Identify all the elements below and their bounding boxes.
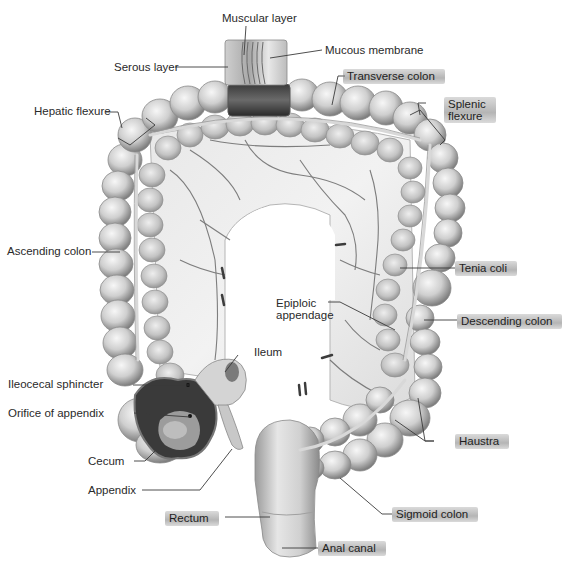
label-tenia-coli: Tenia coli	[455, 261, 517, 276]
wall-layers-cutaway	[225, 40, 287, 85]
label-mucous-membrane: Mucous membrane	[325, 44, 423, 57]
label-ascending-colon: Ascending colon	[7, 245, 91, 258]
label-rectum: Rectum	[165, 511, 219, 526]
large-intestine-diagram: Muscular layer Mucous membrane Serous la…	[0, 0, 566, 566]
label-splenic-flexure-line2: flexure	[448, 110, 483, 122]
label-epiploic-appendage-line2: appendage	[276, 309, 334, 321]
label-anal-canal: Anal canal	[318, 541, 386, 556]
label-splenic-flexure-line1: Splenic	[448, 98, 486, 110]
label-orifice-of-appendix: Orifice of appendix	[8, 407, 104, 420]
label-epiploic-appendage-line1: Epiploic	[276, 297, 316, 309]
label-sigmoid-colon: Sigmoid colon	[392, 507, 478, 522]
label-ileocecal-sphincter: Ileocecal sphincter	[8, 378, 103, 391]
appendix-shape	[218, 405, 243, 449]
label-cecum: Cecum	[88, 455, 124, 468]
label-hepatic-flexure: Hepatic flexure	[34, 105, 111, 118]
label-ileum: Ileum	[254, 346, 282, 359]
intestine-illustration	[0, 0, 566, 566]
label-muscular-layer: Muscular layer	[222, 12, 297, 25]
label-epiploic-appendage: Epiploic appendage	[276, 297, 334, 321]
rectum-shape	[255, 420, 319, 557]
label-splenic-flexure: Splenic flexure	[444, 97, 496, 123]
label-appendix: Appendix	[88, 484, 136, 497]
label-serous-layer: Serous layer	[114, 61, 179, 74]
label-transverse-colon: Transverse colon	[343, 69, 445, 84]
label-haustra: Haustra	[455, 434, 509, 449]
label-descending-colon: Descending colon	[457, 314, 562, 329]
